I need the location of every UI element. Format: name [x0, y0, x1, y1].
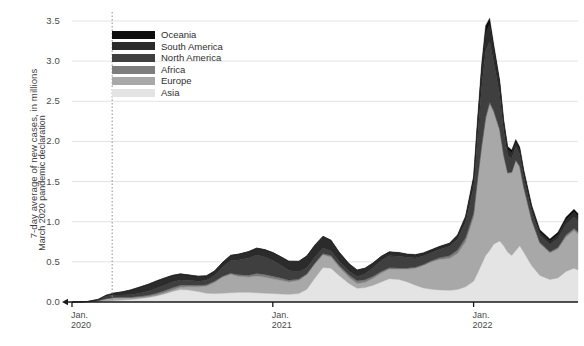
y-tick-label: 2.0 [30, 135, 60, 146]
y-tick-label: 0.5 [30, 256, 60, 267]
y-tick-label: 1.0 [30, 216, 60, 227]
legend-item-label: Europe [161, 76, 192, 86]
x-tick-label-line2: 2021 [272, 320, 292, 330]
y-tick-label: 1.5 [30, 176, 60, 187]
legend-item-europe[interactable]: Europe [112, 75, 223, 87]
legend-item-asia[interactable]: Asia [112, 87, 223, 99]
x-tick-label: Jan.2021 [272, 310, 292, 331]
x-tick-label: Jan.2020 [71, 310, 91, 331]
covid-cases-stacked-area-chart: 7-day average of new cases, in millions … [0, 0, 584, 346]
y-tick-label: 2.5 [30, 95, 60, 106]
legend-item-north-america[interactable]: North America [112, 52, 223, 64]
legend-item-oceania[interactable]: Oceania [112, 29, 223, 41]
legend-swatch-icon [112, 31, 155, 39]
legend-item-africa[interactable]: Africa [112, 64, 223, 76]
legend-item-south-america[interactable]: South America [112, 41, 223, 53]
y-tick-label: 0.0 [30, 296, 60, 307]
x-tick-label-line1: Jan. [272, 310, 292, 320]
legend-swatch-icon [112, 89, 155, 97]
x-tick-label: Jan.2022 [473, 310, 493, 331]
chart-plot-area [0, 0, 584, 346]
legend-swatch-icon [112, 66, 155, 74]
legend-item-label: Africa [161, 65, 185, 75]
x-tick-label-line2: 2022 [473, 320, 493, 330]
chart-legend: OceaniaSouth AmericaNorth AmericaAfricaE… [112, 29, 223, 99]
legend-swatch-icon [112, 42, 155, 50]
x-axis-origin-marker [62, 299, 68, 305]
legend-item-label: North America [161, 53, 221, 63]
y-tick-label: 3.0 [30, 55, 60, 66]
legend-item-label: Asia [161, 88, 179, 98]
x-tick-label-line1: Jan. [473, 310, 493, 320]
x-tick-label-line2: 2020 [71, 320, 91, 330]
x-tick-label-line1: Jan. [71, 310, 91, 320]
legend-swatch-icon [112, 54, 155, 62]
legend-swatch-icon [112, 77, 155, 85]
y-tick-label: 3.5 [30, 15, 60, 26]
legend-item-label: South America [161, 42, 223, 52]
legend-item-label: Oceania [161, 30, 196, 40]
